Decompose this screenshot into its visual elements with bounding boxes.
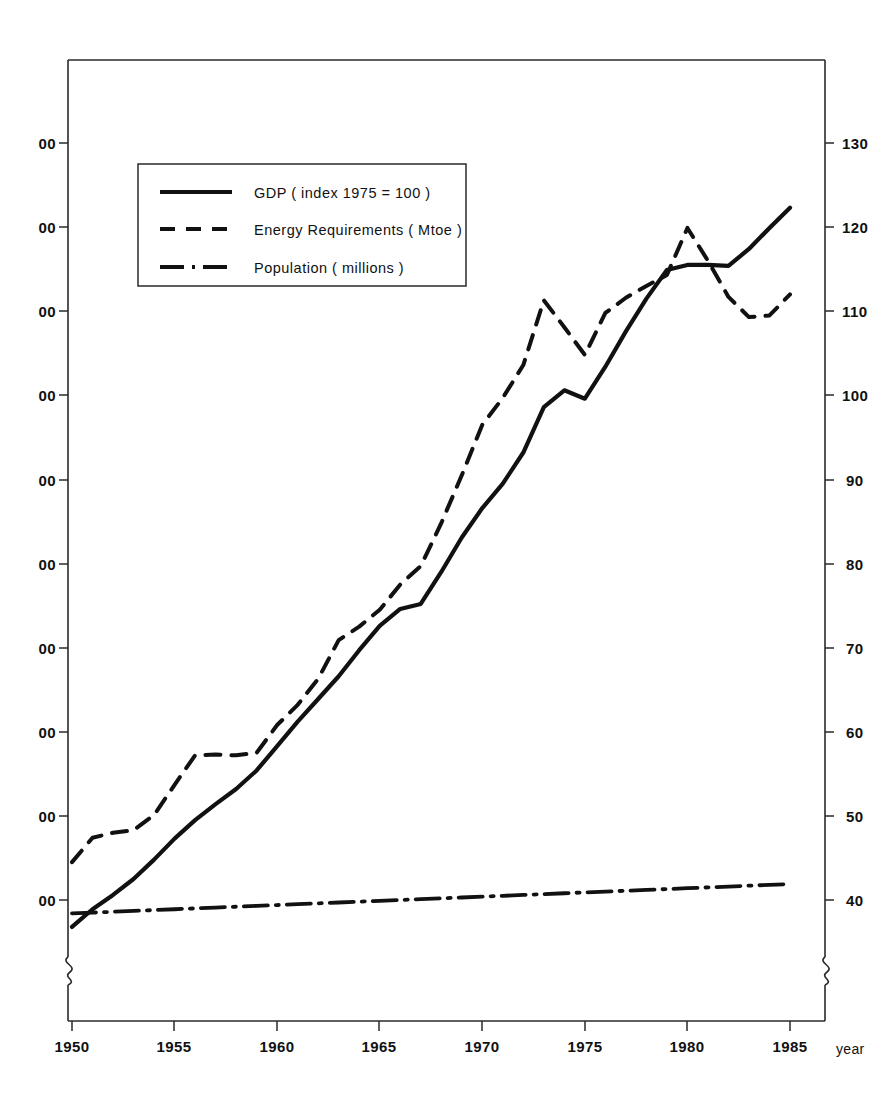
y-left-tick-label: 00 (39, 219, 57, 236)
x-tick-label: 1950 (55, 1038, 90, 1055)
chart-legend: GDP ( index 1975 = 100 ) Energy Requirem… (138, 164, 466, 286)
y-left-tick-label: 00 (39, 387, 57, 404)
x-tick-label: 1975 (568, 1038, 603, 1055)
y-right-tick-label: 90 (846, 472, 864, 489)
legend-label-energy: Energy Requirements ( Mtoe ) (254, 222, 462, 238)
x-tick-label: 1980 (670, 1038, 705, 1055)
y-left-tick-label: 00 (39, 303, 57, 320)
y-left-tick-label: 00 (39, 556, 57, 573)
y-left-tick-label: 00 (39, 724, 57, 741)
y-right-tick-label: 70 (846, 640, 864, 657)
y-right-tick-label: 100 (842, 387, 868, 404)
x-tick-label: 1960 (260, 1038, 295, 1055)
y-right-tick-label: 130 (842, 135, 868, 152)
y-left-tick-label: 00 (39, 808, 57, 825)
y-right-tick-label: 110 (842, 303, 867, 320)
x-tick-label: 1970 (465, 1038, 500, 1055)
y-left-tick-label: 00 (39, 640, 57, 657)
y-left-tick-label: 00 (39, 135, 57, 152)
x-tick-label: 1985 (773, 1038, 808, 1055)
y-right-tick-label: 120 (842, 219, 868, 236)
x-axis-unit-label: year (836, 1041, 864, 1057)
x-tick-label: 1965 (362, 1038, 397, 1055)
y-right-tick-label: 60 (846, 724, 864, 741)
y-right-tick-label: 80 (846, 556, 864, 573)
chart-figure: 00 00 00 00 00 00 00 00 00 00 130 120 11… (0, 0, 892, 1095)
y-right-tick-label: 40 (846, 892, 864, 909)
legend-label-population: Population ( millions ) (254, 260, 404, 276)
x-tick-label: 1955 (157, 1038, 192, 1055)
y-right-tick-label: 50 (846, 808, 864, 825)
y-left-tick-label: 00 (39, 892, 57, 909)
legend-label-gdp: GDP ( index 1975 = 100 ) (254, 185, 431, 201)
y-left-tick-label: 00 (39, 472, 57, 489)
chart-svg: 00 00 00 00 00 00 00 00 00 00 130 120 11… (0, 0, 892, 1095)
